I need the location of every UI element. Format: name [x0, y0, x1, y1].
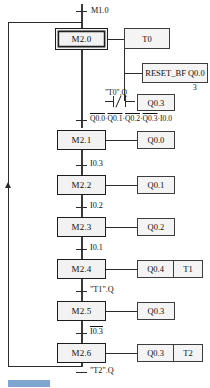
step-m24[interactable]: M2.4	[57, 259, 106, 279]
action-box-q02[interactable]: Q0.2	[137, 218, 175, 236]
action-t0-label: T0	[125, 29, 169, 48]
return-rail-top-segment	[8, 22, 82, 23]
action-link-m22	[106, 185, 137, 186]
main-rail-upper	[81, 50, 83, 128]
transition-label-m22-m23: I0.2	[90, 201, 103, 210]
action-link-m23	[106, 227, 137, 228]
return-rail-vertical	[8, 22, 9, 367]
transition-bar-m26-return	[76, 372, 87, 373]
action-link-m24	[106, 269, 137, 270]
transition-bar-m20-m21	[76, 120, 87, 121]
action-box-q01[interactable]: Q0.1	[137, 176, 175, 194]
action-q02-label: Q0.2	[138, 219, 174, 235]
action-t2-label: T2	[173, 345, 202, 361]
step-m26-label: M2.6	[71, 348, 91, 358]
action-box-q03-m25[interactable]: Q0.3	[137, 302, 175, 320]
action-box-q03-contact[interactable]: Q0.3	[137, 94, 175, 111]
action-q01-label: Q0.1	[138, 177, 174, 193]
transition-bar-m22-m23	[76, 207, 87, 208]
action-q03-m26-label: Q0.3	[138, 345, 173, 361]
main-rail-top	[81, 4, 83, 28]
action-link-reset-bf	[124, 73, 142, 74]
caption-strip	[0, 378, 210, 388]
transition-bar-m21-m22	[76, 165, 87, 166]
normally-closed-contact-icon[interactable]	[111, 96, 128, 107]
transition-bar-m25-m26	[76, 333, 87, 334]
step-m20[interactable]: M2.0	[55, 28, 108, 50]
term-q01-negated: Q0.1	[108, 114, 123, 123]
step-m23[interactable]: M2.3	[57, 217, 106, 237]
action-t1-label: T1	[173, 261, 202, 277]
step-m22-label: M2.2	[71, 180, 91, 190]
action-box-q00[interactable]: Q0.0	[137, 131, 175, 149]
step-m20-label: M2.0	[71, 34, 91, 44]
term-q03-negated: Q0.3	[143, 114, 158, 123]
transition-label-m25-m26: I0.3	[90, 327, 103, 336]
return-rail-bottom-segment	[8, 366, 82, 367]
action-box-q04-t1[interactable]: Q0.4 T1	[137, 260, 203, 278]
transition-label-m20-m21: Q0.0·Q0.1·Q0.2·Q0.3·I0.0	[90, 114, 172, 123]
step-m24-label: M2.4	[71, 264, 91, 274]
action-reset-bf-label: RESET_BF Q0.0	[143, 64, 207, 82]
step-m26[interactable]: M2.6	[57, 343, 106, 363]
step-m23-label: M2.3	[71, 222, 91, 232]
sfc-diagram: M1.0 M2.0 T0 RESET_BF Q0.0 3 "T0".Q Q0.3…	[0, 0, 210, 388]
transition-label-initial: M1.0	[91, 6, 109, 15]
action-q03-m25-label: Q0.3	[138, 303, 174, 319]
transition-bar-m23-m24	[76, 249, 87, 250]
action-link-m26	[106, 353, 137, 354]
action-box-t0[interactable]: T0	[124, 28, 170, 49]
transition-bar-initial	[76, 11, 87, 12]
term-q00-negated: Q0.0	[90, 114, 105, 123]
caption-highlight	[8, 380, 50, 387]
action-link-m25	[106, 311, 137, 312]
transition-bar-m24-m25	[76, 291, 87, 292]
step-m25[interactable]: M2.5	[57, 301, 106, 321]
step-m21-label: M2.1	[71, 135, 91, 145]
action-q04-label: Q0.4	[138, 261, 173, 277]
action-box-reset-bf[interactable]: RESET_BF Q0.0	[142, 63, 208, 83]
action-box-q03-t2[interactable]: Q0.3 T2	[137, 344, 203, 362]
transition-label-m23-m24: I0.1	[90, 243, 103, 252]
term-q02-negated: Q0.2	[125, 114, 140, 123]
step-m21[interactable]: M2.1	[57, 130, 106, 150]
term-i00: I0.0	[160, 114, 172, 123]
action-q00-label: Q0.0	[138, 132, 174, 148]
transition-label-m24-m25: "T1".Q	[90, 285, 114, 294]
reset-bf-count: 3	[193, 83, 197, 92]
step-m22[interactable]: M2.2	[57, 175, 106, 195]
return-flow-arrow-icon	[5, 182, 11, 188]
step-m25-label: M2.5	[71, 306, 91, 316]
action-q03-contact-label: Q0.3	[138, 95, 174, 110]
transition-label-m21-m22: I0.3	[90, 159, 103, 168]
transition-label-m26-return: "T2".Q	[90, 366, 114, 375]
action-link-m21	[106, 140, 137, 141]
